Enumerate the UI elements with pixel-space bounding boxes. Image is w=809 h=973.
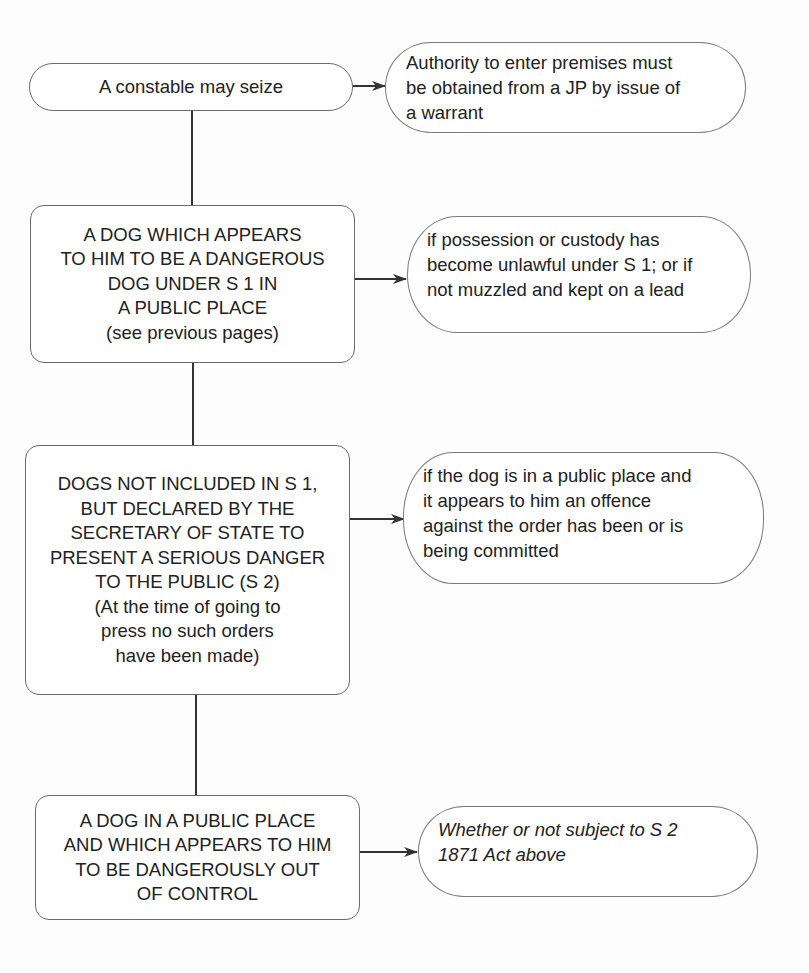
root-node-constable: A constable may seize: [29, 63, 353, 111]
root-label: A constable may seize: [99, 75, 283, 100]
case-node-dangerous-dog-s1: A DOG WHICH APPEARS TO HIM TO BE A DANGE…: [30, 205, 355, 363]
case-node-dangerously-out-of-control: A DOG IN A PUBLIC PLACE AND WHICH APPEAR…: [35, 795, 360, 920]
note-offence-against-order: if the dog is in a public place and it a…: [403, 452, 764, 584]
note-whether-or-not-s2: Whether or not subject to S 2 1871 Act a…: [418, 806, 758, 897]
case-node-declared-dogs-s2: DOGS NOT INCLUDED IN S 1, BUT DECLARED B…: [25, 445, 350, 695]
note-authority-warrant: Authority to enter premises must be obta…: [385, 42, 746, 133]
note-possession-unlawful: if possession or custody has become unla…: [407, 216, 751, 333]
